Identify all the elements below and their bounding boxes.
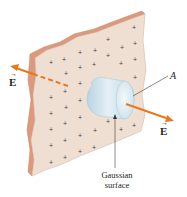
gaussian-cylinder	[87, 77, 134, 119]
svg-text:+: +	[63, 120, 67, 127]
area-label: A	[170, 71, 176, 81]
svg-text:+: +	[133, 40, 137, 47]
svg-text:+: +	[120, 44, 124, 51]
svg-text:+: +	[93, 47, 97, 54]
gaussian-plane-diagram: + +++ ++++ +++++ +++ ++ +++ ++++++ ++++ …	[0, 0, 187, 197]
svg-text:+: +	[132, 122, 136, 129]
svg-text:+: +	[106, 52, 110, 59]
svg-text:+: +	[78, 80, 82, 87]
svg-text:+: +	[132, 24, 136, 31]
svg-text:+: +	[49, 126, 53, 133]
svg-text:+: +	[49, 142, 53, 149]
vector-arrow-glyph: →	[10, 71, 17, 78]
svg-text:+: +	[78, 49, 82, 56]
svg-text:+: +	[92, 61, 96, 68]
diagram-canvas: + +++ ++++ +++++ +++ ++ +++ ++++++ ++++ …	[0, 0, 187, 197]
svg-text:+: +	[119, 126, 123, 133]
svg-text:+: +	[64, 70, 68, 77]
svg-text:+: +	[63, 137, 67, 144]
svg-text:+: +	[63, 154, 67, 161]
svg-text:+: +	[62, 56, 66, 63]
field-label-right: → E	[160, 126, 167, 137]
field-label-left: → E	[9, 77, 16, 88]
svg-text:+: +	[63, 88, 67, 95]
svg-text:+: +	[49, 159, 53, 166]
svg-text:+: +	[78, 97, 82, 104]
svg-text:+: +	[49, 94, 53, 101]
svg-text:+: +	[106, 118, 110, 125]
cylinder-end-cap	[116, 81, 134, 119]
svg-text:+: +	[93, 127, 97, 134]
svg-text:+: +	[78, 132, 82, 139]
svg-text:+: +	[78, 114, 82, 121]
svg-text:+: +	[133, 74, 137, 81]
svg-text:+: +	[78, 148, 82, 155]
svg-text:+: +	[49, 59, 53, 66]
svg-text:+: +	[133, 56, 137, 63]
svg-text:+: +	[49, 110, 53, 117]
svg-text:+: +	[78, 64, 82, 71]
svg-text:+: +	[64, 104, 68, 111]
svg-text:+: +	[106, 36, 110, 43]
svg-text:+: +	[92, 144, 96, 151]
vector-arrow-glyph: →	[161, 120, 168, 127]
svg-text:+: +	[119, 60, 123, 67]
gaussian-surface-caption: Gaussian surface	[92, 170, 142, 190]
